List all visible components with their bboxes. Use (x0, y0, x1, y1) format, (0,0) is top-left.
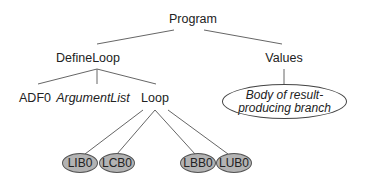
edge-program-defineloop (97, 30, 174, 44)
node-result-producing-branch: Body of result- producing branch (222, 84, 347, 119)
edge-program-values (204, 30, 282, 44)
node-lub0: LUB0 (216, 153, 252, 173)
edge-defineloop-adf0 (38, 69, 97, 84)
edge-defineloop-loop (97, 69, 156, 84)
edge-loop-lcb0 (117, 110, 155, 154)
body-line-1: Body of result- (238, 89, 331, 102)
node-lib0: LIB0 (62, 153, 98, 173)
node-loop: Loop (141, 92, 169, 105)
body-line-2: producing branch (238, 102, 331, 115)
node-program: Program (169, 13, 217, 26)
edge-loop-lib0 (85, 110, 143, 154)
node-adf0: ADF0 (19, 92, 51, 105)
edge-loop-lub0 (168, 110, 228, 154)
edge-loop-lbb0 (155, 110, 195, 154)
node-defineloop: DefineLoop (56, 52, 120, 65)
node-lbb0: LBB0 (180, 153, 216, 173)
node-lcb0: LCB0 (99, 153, 135, 173)
node-argumentlist: ArgumentList (56, 92, 130, 105)
node-values: Values (265, 52, 302, 65)
